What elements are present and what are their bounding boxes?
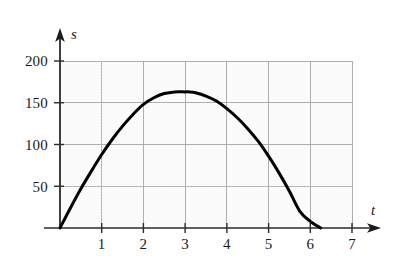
x-tick-label-7: 7 bbox=[348, 236, 356, 253]
x-tick-label-6: 6 bbox=[306, 236, 314, 253]
chart-plot-area bbox=[0, 0, 408, 258]
x-tick-label-2: 2 bbox=[140, 236, 148, 253]
x-axis-label: t bbox=[371, 202, 375, 219]
y-tick-label-150: 150 bbox=[14, 95, 48, 112]
x-tick-label-4: 4 bbox=[223, 236, 231, 253]
x-tick-label-1: 1 bbox=[98, 236, 106, 253]
x-tick-label-5: 5 bbox=[265, 236, 273, 253]
chart-figure: 200 150 100 50 1 2 3 4 5 6 7 s t bbox=[0, 0, 408, 258]
x-tick-label-3: 3 bbox=[181, 236, 189, 253]
y-tick-label-50: 50 bbox=[14, 179, 48, 196]
y-tick-label-200: 200 bbox=[14, 53, 48, 70]
y-axis-label: s bbox=[71, 26, 77, 43]
y-tick-label-100: 100 bbox=[14, 137, 48, 154]
